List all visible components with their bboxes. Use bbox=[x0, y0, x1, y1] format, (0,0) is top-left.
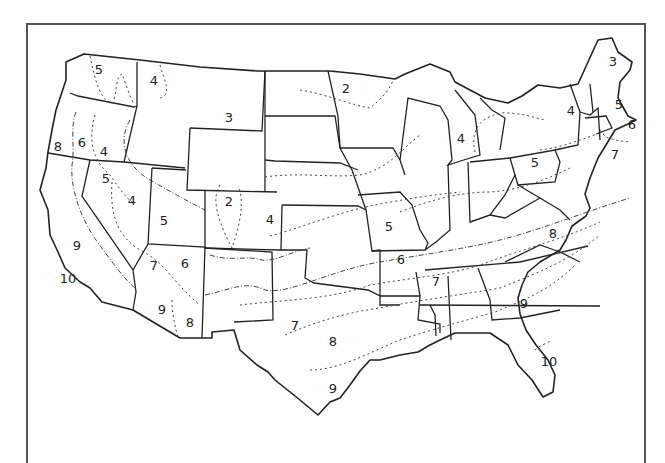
zone-label: 2 bbox=[342, 82, 350, 95]
zone-label: 5 bbox=[160, 214, 168, 227]
zone-label: 4 bbox=[100, 145, 108, 158]
zone-label: 4 bbox=[128, 194, 136, 207]
zone-label: 7 bbox=[291, 319, 299, 332]
zone-label: 5 bbox=[95, 63, 103, 76]
zone-label: 3 bbox=[609, 55, 617, 68]
zone-label: 6 bbox=[397, 253, 405, 266]
zone-label: 10 bbox=[60, 272, 77, 285]
zone-label: 8 bbox=[54, 140, 62, 153]
zone-label: 10 bbox=[541, 355, 558, 368]
zone-label: 6 bbox=[628, 118, 636, 131]
zone-label: 5 bbox=[385, 220, 393, 233]
zone-label: 5 bbox=[531, 156, 539, 169]
zone-label: 8 bbox=[186, 316, 194, 329]
zone-label: 7 bbox=[432, 275, 440, 288]
zone-label: 7 bbox=[150, 259, 158, 272]
zone-label: 9 bbox=[520, 297, 528, 310]
zone-label: 9 bbox=[329, 382, 337, 395]
zone-label: 7 bbox=[611, 148, 619, 161]
zone-label: 5 bbox=[615, 98, 623, 111]
zone-label: 6 bbox=[181, 257, 189, 270]
zone-label: 4 bbox=[150, 74, 158, 87]
zone-label: 4 bbox=[567, 104, 575, 117]
zone-label: 6 bbox=[78, 136, 86, 149]
zone-label: 8 bbox=[329, 335, 337, 348]
zone-label: 9 bbox=[73, 239, 81, 252]
zone-label: 9 bbox=[158, 303, 166, 316]
zone-label: 4 bbox=[266, 213, 274, 226]
zone-label: 2 bbox=[225, 195, 233, 208]
zone-label: 4 bbox=[457, 132, 465, 145]
zone-label: 3 bbox=[225, 111, 233, 124]
zone-label: 8 bbox=[549, 227, 557, 240]
zone-label: 5 bbox=[102, 172, 110, 185]
